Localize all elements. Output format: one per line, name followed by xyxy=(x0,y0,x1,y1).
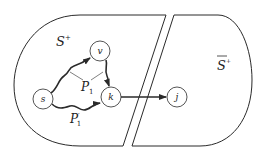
svg-text:v: v xyxy=(97,46,102,56)
path-label-p1-prime: P′1 xyxy=(69,112,81,128)
path-label-p1: P1 xyxy=(80,80,94,96)
region-s-plus-boundary xyxy=(14,15,166,146)
node-v: v xyxy=(90,41,110,61)
svg-text:k: k xyxy=(108,92,113,102)
diagram-svg: S+ S+ P1 P′1 s v k j xyxy=(0,0,265,157)
p1-leader-right xyxy=(91,72,103,80)
node-k: k xyxy=(101,87,121,107)
svg-text:s: s xyxy=(41,94,46,104)
region-label-s-plus: S+ xyxy=(56,34,71,49)
region-label-s-plus-complement: S+ xyxy=(217,57,231,73)
region-s-plus-complement-boundary xyxy=(132,15,252,146)
diagram-canvas: S+ S+ P1 P′1 s v k j xyxy=(0,0,265,157)
path-p1prime-s-to-k xyxy=(52,103,100,110)
node-j: j xyxy=(167,87,187,107)
p1-leader-left xyxy=(70,72,83,80)
path-p1-v-to-k xyxy=(106,60,109,86)
node-s: s xyxy=(33,89,53,109)
